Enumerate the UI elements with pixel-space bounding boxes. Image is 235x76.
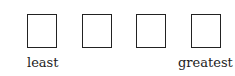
greatest-label: greatest [178, 55, 233, 71]
answer-box-4[interactable] [191, 14, 221, 48]
answer-box-2[interactable] [82, 14, 112, 48]
least-label: least [27, 55, 59, 71]
answer-box-1[interactable] [27, 14, 57, 48]
answer-box-3[interactable] [136, 14, 166, 48]
